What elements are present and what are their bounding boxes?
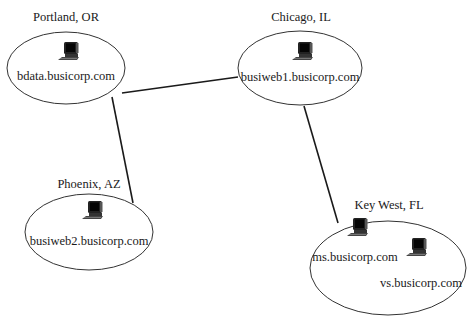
host-name-label: ms.busicorp.com xyxy=(312,250,398,264)
host-name-label: busiweb2.busicorp.com xyxy=(30,234,149,248)
site-boundary xyxy=(310,221,466,315)
host-name-label: bdata.busicorp.com xyxy=(17,69,115,83)
site-keywest[interactable]: Key West, FL ms.busicorp.com vs.busicorp… xyxy=(310,198,466,315)
site-location-label: Portland, OR xyxy=(33,10,100,24)
site-location-label: Chicago, IL xyxy=(271,10,331,24)
site-chicago[interactable]: Chicago, IL busiweb1.busicorp.com xyxy=(238,10,362,105)
site-portland[interactable]: Portland, OR bdata.busicorp.com xyxy=(7,10,125,104)
network-diagram: Portland, OR bdata.busicorp.com Chicago,… xyxy=(0,0,473,318)
site-location-label: Key West, FL xyxy=(354,198,423,212)
link-chicago-keywest xyxy=(304,106,338,223)
host-name-label: vs.busicorp.com xyxy=(380,276,462,290)
link-portland-chicago xyxy=(122,77,238,93)
site-location-label: Phoenix, AZ xyxy=(57,177,120,191)
site-phoenix[interactable]: Phoenix, AZ busiweb2.busicorp.com xyxy=(25,177,153,270)
host-name-label: busiweb1.busicorp.com xyxy=(241,70,360,84)
